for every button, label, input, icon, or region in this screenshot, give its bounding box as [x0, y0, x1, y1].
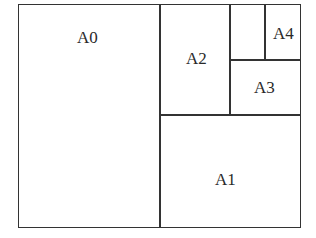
label-a2: A2	[186, 50, 207, 67]
label-a1: A1	[215, 171, 236, 188]
sheet-a5-unlabeled	[229, 4, 266, 61]
label-a0: A0	[77, 29, 98, 46]
label-a3: A3	[254, 79, 275, 96]
label-a4: A4	[273, 25, 294, 42]
